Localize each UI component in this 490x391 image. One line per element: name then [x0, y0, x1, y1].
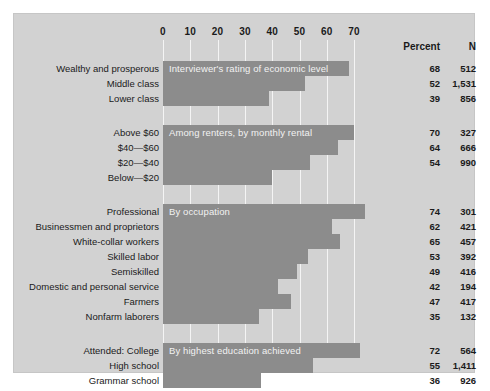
- value-percent: 55: [394, 359, 440, 372]
- value-n: 416: [442, 265, 476, 278]
- bar: [163, 234, 340, 249]
- chart-group: Wealthy and prosperousInterviewer's rati…: [14, 61, 474, 106]
- bar: [163, 264, 297, 279]
- value-percent: 42: [394, 280, 440, 293]
- bar: [163, 219, 332, 234]
- bar: [163, 155, 310, 170]
- chart-row: Semiskilled49416: [14, 264, 474, 279]
- row-label: Below—$20: [14, 171, 159, 184]
- row-label: Lower class: [14, 92, 159, 105]
- row-label: High school: [14, 359, 159, 372]
- bar: [163, 76, 305, 91]
- value-percent: 68: [394, 62, 440, 75]
- value-n: 392: [442, 250, 476, 263]
- chart-row: Wealthy and prosperousInterviewer's rati…: [14, 61, 474, 76]
- x-tick-label-70: 70: [348, 26, 360, 37]
- row-label: $20—$40: [14, 156, 159, 169]
- bar: [163, 249, 308, 264]
- chart-row: Skilled labor53392: [14, 249, 474, 264]
- chart-row: Below—$20: [14, 170, 474, 185]
- value-percent: 49: [394, 265, 440, 278]
- group-title: By highest education achieved: [169, 344, 301, 357]
- bar: [163, 309, 259, 324]
- x-tick-label-20: 20: [212, 26, 224, 37]
- value-n: 990: [442, 156, 476, 169]
- group-title: By occupation: [169, 205, 230, 218]
- value-n: 194: [442, 280, 476, 293]
- chart-group: ProfessionalBy occupation74301Businessme…: [14, 204, 474, 324]
- chart-row: Attended: CollegeBy highest education ac…: [14, 343, 474, 358]
- row-label: Middle class: [14, 77, 159, 90]
- value-n: 327: [442, 126, 476, 139]
- chart-group: Attended: CollegeBy highest education ac…: [14, 343, 474, 388]
- value-percent: 64: [394, 141, 440, 154]
- row-label: Semiskilled: [14, 265, 159, 278]
- row-label: Professional: [14, 205, 159, 218]
- chart-group: Above $60Among renters, by monthly renta…: [14, 125, 474, 185]
- value-percent: 54: [394, 156, 440, 169]
- row-label: Businessmen and proprietors: [14, 220, 159, 233]
- chart-row: Domestic and personal service42194: [14, 279, 474, 294]
- value-n: 417: [442, 295, 476, 308]
- bar: [163, 373, 261, 388]
- group-title: Among renters, by monthly rental: [169, 126, 312, 139]
- value-percent: 74: [394, 205, 440, 218]
- chart-row: High school551,411: [14, 358, 474, 373]
- row-label: Skilled labor: [14, 250, 159, 263]
- chart-row: $20—$4054990: [14, 155, 474, 170]
- value-percent: 72: [394, 344, 440, 357]
- value-n: 926: [442, 374, 476, 387]
- x-tick-label-60: 60: [321, 26, 333, 37]
- value-n: 564: [442, 344, 476, 357]
- x-tick-label-10: 10: [185, 26, 197, 37]
- value-percent: 70: [394, 126, 440, 139]
- value-n: 1,531: [442, 77, 476, 90]
- chart-row: Grammar school36926: [14, 373, 474, 388]
- bar: [163, 358, 313, 373]
- value-n: 1,411: [442, 359, 476, 372]
- value-n: 132: [442, 310, 476, 323]
- value-percent: 36: [394, 374, 440, 387]
- row-label: $40—$60: [14, 141, 159, 154]
- value-n: 301: [442, 205, 476, 218]
- plot-area: 010203040506070 Percent N Wealthy and pr…: [14, 14, 474, 372]
- chart-row: Middle class521,531: [14, 76, 474, 91]
- group-title: Interviewer's rating of economic level: [169, 62, 328, 75]
- row-label: Attended: College: [14, 344, 159, 357]
- value-n: 666: [442, 141, 476, 154]
- chart-row: $40—$6064666: [14, 140, 474, 155]
- column-header-percent: Percent: [394, 41, 440, 52]
- chart-row: Above $60Among renters, by monthly renta…: [14, 125, 474, 140]
- row-label: Grammar school: [14, 374, 159, 387]
- value-n: 457: [442, 235, 476, 248]
- bar: [163, 170, 272, 185]
- chart-row: Farmers47417: [14, 294, 474, 309]
- chart-row: Nonfarm laborers35132: [14, 309, 474, 324]
- x-tick-label-0: 0: [160, 26, 166, 37]
- value-percent: 47: [394, 295, 440, 308]
- chart-row: ProfessionalBy occupation74301: [14, 204, 474, 219]
- chart-row: Lower class39856: [14, 91, 474, 106]
- bar: [163, 140, 338, 155]
- value-percent: 62: [394, 220, 440, 233]
- value-percent: 53: [394, 250, 440, 263]
- value-percent: 39: [394, 92, 440, 105]
- bar: [163, 91, 269, 106]
- value-n: 421: [442, 220, 476, 233]
- x-tick-label-30: 30: [239, 26, 251, 37]
- row-label: Domestic and personal service: [14, 280, 159, 293]
- x-tick-label-40: 40: [266, 26, 278, 37]
- row-label: White-collar workers: [14, 235, 159, 248]
- chart-row: White-collar workers65457: [14, 234, 474, 249]
- value-n: 856: [442, 92, 476, 105]
- bar: [163, 279, 278, 294]
- value-n: 512: [442, 62, 476, 75]
- x-tick-label-50: 50: [294, 26, 306, 37]
- value-percent: 52: [394, 77, 440, 90]
- bar: [163, 294, 291, 309]
- row-label: Above $60: [14, 126, 159, 139]
- row-label: Nonfarm laborers: [14, 310, 159, 323]
- chart-row: Businessmen and proprietors62421: [14, 219, 474, 234]
- chart-frame: 010203040506070 Percent N Wealthy and pr…: [14, 14, 474, 372]
- value-percent: 65: [394, 235, 440, 248]
